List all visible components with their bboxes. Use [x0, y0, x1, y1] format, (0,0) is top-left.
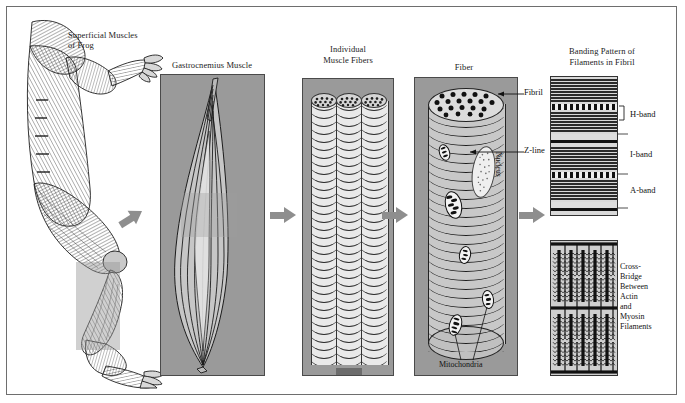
panel-muscle-fibers: [302, 78, 394, 376]
z-line-leader-line: [470, 148, 532, 156]
fiber-3-cross-section: [362, 95, 386, 108]
i-band-label: I-band: [630, 150, 652, 160]
band-brackets: [618, 76, 632, 218]
fiber-2-contracted-band: [336, 368, 362, 376]
gastrocnemius-illustration: [161, 75, 264, 375]
panel-frog: Superficial Muscles of Frog: [14, 14, 164, 389]
arrow-muscle-to-fibers: [270, 207, 296, 223]
panel-frog-caption-line1: Superficial Muscles: [68, 30, 168, 41]
calf-highlight-box: [76, 262, 120, 350]
panel-frog-caption-line2: of Frog: [68, 40, 168, 51]
panel-fibers-caption-line1: Individual: [300, 44, 396, 55]
mitochondria-leader-lines: [415, 78, 518, 376]
filament-lattice-diagram: [550, 240, 618, 376]
panel-fibril-caption-line2: Filaments in Fibril: [540, 57, 664, 68]
muscle-fiber-2: [336, 93, 362, 365]
muscle-organization-figure: Superficial Muscles of Frog Gastrocnemiu…: [0, 0, 685, 403]
panel-fiber-caption: Fiber: [412, 62, 516, 73]
muscle-fiber-3: [361, 93, 387, 365]
cross-bridge-label: Cross- Bridge Between Actin and Myosin F…: [620, 262, 652, 332]
arrow-fibers-to-fiber: [382, 207, 408, 223]
panel-fibril-caption-line1: Banding Pattern of: [540, 46, 664, 57]
a-band-label: A-band: [630, 186, 656, 196]
fiber-2-cross-section: [337, 95, 361, 108]
fibril-banding-diagram: [550, 76, 618, 216]
panel-gastrocnemius: [160, 74, 265, 376]
panel-fibers-caption-line2: Muscle Fibers: [300, 55, 396, 66]
z-line-label: Z-line: [524, 146, 545, 156]
panel-gastrocnemius-caption: Gastrocnemius Muscle: [156, 60, 268, 71]
muscle-fiber-1: [311, 93, 337, 365]
fiber-1-cross-section: [312, 95, 336, 108]
h-band-label: H-band: [630, 110, 656, 120]
arrow-fiber-to-fibril: [519, 207, 545, 223]
panel-fiber: Nucleus: [414, 77, 518, 376]
mitochondria-label: Mitochondria: [439, 360, 483, 370]
fibril-label: Fibril: [524, 88, 543, 98]
